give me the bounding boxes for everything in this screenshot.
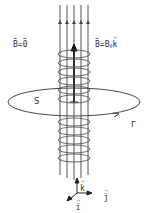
solenoid-diagram [0,0,149,213]
axis-k-label: k [80,185,85,193]
vector-zero: 0 [23,41,28,49]
loop-label: Γ [131,121,136,129]
b-field-arrow [70,44,78,102]
unit-k: k [112,41,117,49]
inside-field-label: B=B0k [95,41,117,49]
loop-direction-arrow [113,113,119,117]
vector-b: B [13,41,18,49]
field-line-arrowheads [58,20,90,24]
outside-field-label: B=0 [13,41,27,49]
vector-b: B [95,41,100,49]
axis-j-label: j [104,194,109,202]
surface-label: S [34,97,39,106]
axis-i-label: i [76,204,81,212]
